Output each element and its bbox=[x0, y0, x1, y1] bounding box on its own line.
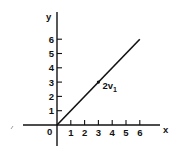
y-tick-label: 5 bbox=[49, 48, 55, 59]
annotation-point bbox=[97, 81, 100, 84]
y-axis-label: y bbox=[46, 11, 52, 22]
y-tick-label: 6 bbox=[49, 34, 54, 45]
x-tick-label: 4 bbox=[110, 127, 116, 138]
annotation-label: 2v1 bbox=[102, 80, 117, 93]
y-tick-label: 3 bbox=[49, 77, 54, 88]
x-tick-label: 1 bbox=[68, 127, 74, 138]
origin-label: 0 bbox=[47, 126, 52, 137]
x-axis-label: x bbox=[163, 124, 169, 135]
vector-chart: 123456 123456 x y 0 2v1 bbox=[0, 0, 176, 151]
x-tick-label: 5 bbox=[123, 127, 129, 138]
y-tick-label: 2 bbox=[49, 91, 54, 102]
y-tick-label: 4 bbox=[49, 62, 55, 73]
scan-artifact bbox=[11, 126, 13, 129]
x-tick-label: 2 bbox=[82, 127, 87, 138]
x-tick-label: 6 bbox=[137, 127, 142, 138]
y-tick-label: 1 bbox=[49, 105, 55, 116]
x-tick-label: 3 bbox=[96, 127, 101, 138]
annotation-subscript: 1 bbox=[113, 86, 117, 93]
